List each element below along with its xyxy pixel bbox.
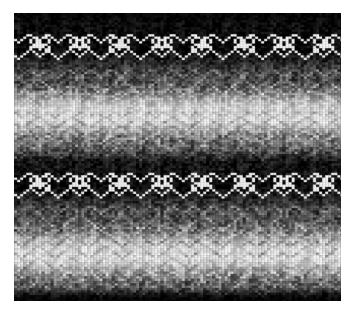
knitted-fabric-swatch: [14, 13, 341, 301]
image-canvas: [0, 0, 350, 314]
fabric-texture-canvas: [14, 13, 341, 301]
